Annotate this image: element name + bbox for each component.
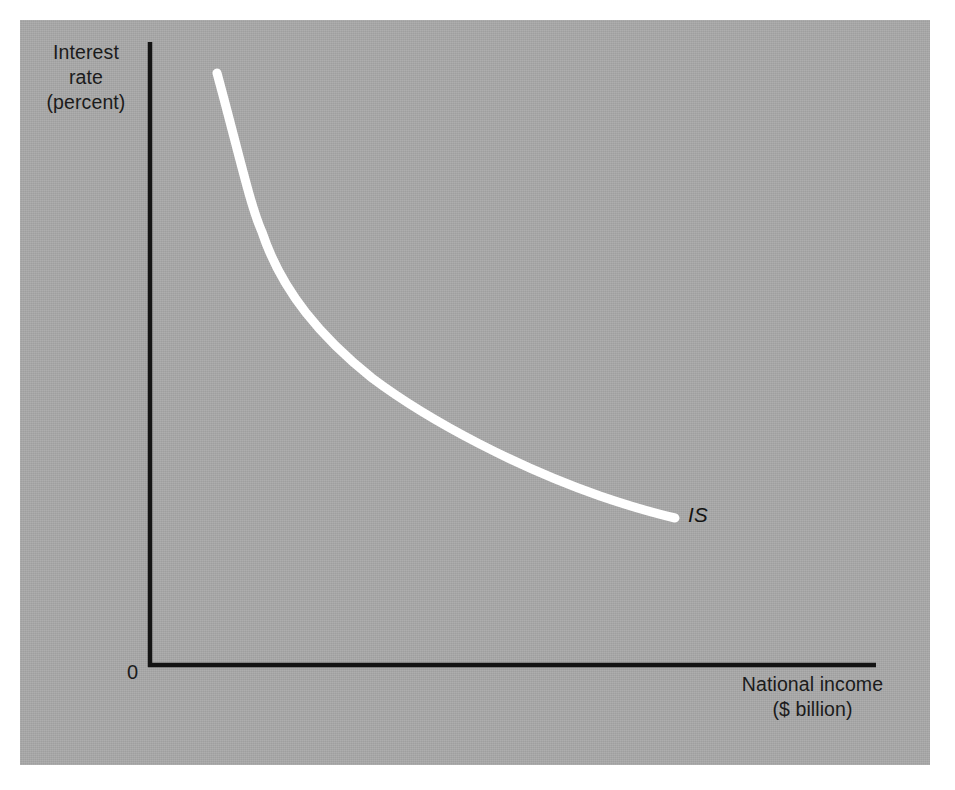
y-axis-label-line1: Interest bbox=[30, 40, 142, 65]
y-axis-label-line2: rate bbox=[30, 65, 142, 90]
is-curve-label: IS bbox=[688, 502, 708, 527]
x-axis-label-line1: National income bbox=[735, 672, 890, 697]
y-axis-label-line3: (percent) bbox=[30, 90, 142, 115]
y-axis-label: Interest rate (percent) bbox=[30, 40, 142, 115]
is-curve-figure: Interest rate (percent) National income … bbox=[0, 0, 955, 790]
is-curve bbox=[217, 73, 675, 518]
x-axis-label-line2: ($ billion) bbox=[735, 697, 890, 722]
origin-label: 0 bbox=[127, 660, 138, 685]
x-axis-label: National income ($ billion) bbox=[735, 672, 890, 722]
